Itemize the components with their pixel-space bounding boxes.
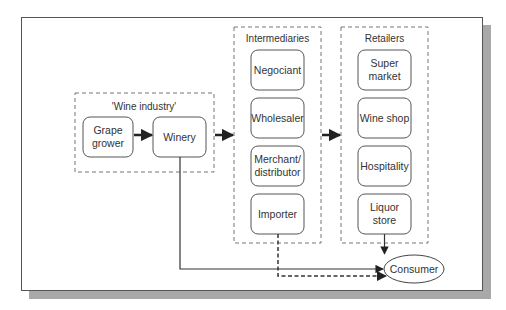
svg-text:Super: Super bbox=[370, 57, 399, 69]
group-label-retailers: Retailers bbox=[365, 33, 404, 44]
node-importer[interactable]: Importer bbox=[251, 194, 304, 234]
node-liquor-store[interactable]: Liquor store bbox=[358, 194, 411, 234]
svg-text:market: market bbox=[368, 70, 400, 82]
arrow-importer-to-consumer bbox=[278, 234, 386, 276]
svg-text:store: store bbox=[373, 214, 397, 226]
svg-text:distributor: distributor bbox=[254, 166, 301, 178]
node-hospitality[interactable]: Hospitality bbox=[358, 146, 411, 186]
node-wine-shop[interactable]: Wine shop bbox=[358, 98, 411, 138]
svg-text:Negociant: Negociant bbox=[254, 64, 301, 76]
group-label-wine-industry: 'Wine industry' bbox=[112, 101, 176, 112]
node-winery[interactable]: Winery bbox=[153, 117, 206, 157]
node-consumer[interactable]: Consumer bbox=[384, 255, 444, 283]
node-wholesaler[interactable]: Wholesaler bbox=[251, 98, 304, 138]
svg-text:Merchant/: Merchant/ bbox=[254, 153, 301, 165]
supply-chain-diagram: 'Wine industry' Grape grower Winery Inte… bbox=[0, 0, 506, 310]
svg-text:Consumer: Consumer bbox=[390, 263, 439, 275]
node-supermarket[interactable]: Super market bbox=[358, 50, 411, 90]
node-negociant[interactable]: Negociant bbox=[251, 50, 304, 90]
svg-text:Importer: Importer bbox=[258, 208, 298, 220]
svg-text:Wholesaler: Wholesaler bbox=[251, 112, 304, 124]
svg-text:Hospitality: Hospitality bbox=[360, 160, 409, 172]
svg-text:Wine shop: Wine shop bbox=[360, 112, 410, 124]
svg-text:grower: grower bbox=[92, 137, 125, 149]
svg-text:Winery: Winery bbox=[163, 131, 196, 143]
svg-text:Liquor: Liquor bbox=[370, 201, 400, 213]
node-grape-grower[interactable]: Grape grower bbox=[83, 117, 133, 157]
group-label-intermediaries: Intermediaries bbox=[246, 33, 309, 44]
svg-text:Grape: Grape bbox=[93, 124, 122, 136]
node-merchant-distributor[interactable]: Merchant/ distributor bbox=[251, 146, 304, 186]
